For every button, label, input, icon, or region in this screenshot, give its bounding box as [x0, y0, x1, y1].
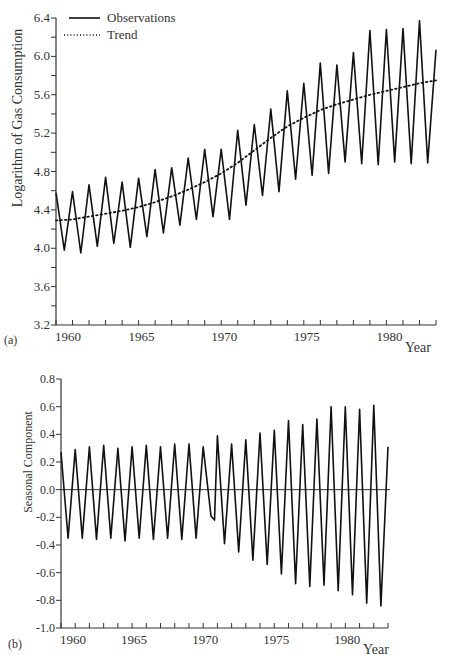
panel-a-log-gas-consumption: 196019651970197519803.23.64.04.44.85.25.… — [4, 10, 436, 355]
y-tick-label: 3.2 — [34, 317, 50, 332]
y-axis-title: Seasonal Component — [21, 411, 35, 513]
y-tick-label: 5.6 — [34, 87, 51, 102]
y-tick-label: -0.2 — [36, 510, 55, 524]
legend: ObservationsTrend — [64, 10, 176, 42]
panel-label: (a) — [4, 333, 17, 347]
figure: 196019651970197519803.23.64.04.44.85.25.… — [0, 0, 450, 658]
x-tick-label: 1970 — [211, 329, 237, 344]
x-tick-label: 1980 — [376, 329, 402, 344]
observations-line — [61, 405, 388, 606]
y-tick-label: -0.6 — [36, 566, 55, 580]
x-tick-label: 1960 — [60, 632, 86, 647]
legend-label: Trend — [107, 27, 138, 42]
y-tick-label: 0.0 — [40, 483, 55, 497]
y-axis-title: Logarithm of Gas Consumption — [10, 29, 25, 208]
y-tick-label: 0.4 — [40, 427, 55, 441]
x-tick-label: 1970 — [192, 632, 218, 647]
y-tick-label: 5.2 — [34, 125, 50, 140]
y-tick-label: 4.4 — [34, 202, 51, 217]
x-tick-label: 1965 — [121, 632, 147, 647]
x-tick-label: 1960 — [55, 329, 81, 344]
panel-b-seasonal-component: 19601965197019751980-1.0-0.8-0.6-0.4-0.2… — [8, 372, 390, 657]
y-tick-label: 0.6 — [40, 400, 55, 414]
y-tick-label: 4.0 — [34, 240, 50, 255]
y-tick-label: 6.0 — [34, 48, 50, 63]
y-tick-label: 0.8 — [40, 372, 55, 386]
x-tick-label: 1975 — [294, 329, 320, 344]
y-tick-label: 0.2 — [40, 455, 55, 469]
y-tick-label: 6.4 — [34, 10, 51, 25]
observations-line — [56, 21, 436, 253]
y-tick-label: 3.6 — [34, 279, 51, 294]
legend-label: Observations — [107, 10, 176, 25]
x-tick-label: 1975 — [263, 632, 289, 647]
x-tick-label: 1965 — [129, 329, 155, 344]
y-tick-label: 4.8 — [34, 164, 50, 179]
x-tick-label: 1980 — [334, 632, 360, 647]
x-axis-title: Year — [363, 642, 389, 657]
x-axis-title: Year — [405, 340, 431, 355]
y-tick-label: -0.4 — [36, 538, 55, 552]
y-tick-label: -0.8 — [36, 593, 55, 607]
y-tick-label: -1.0 — [36, 621, 55, 635]
panel-label: (b) — [8, 637, 22, 651]
